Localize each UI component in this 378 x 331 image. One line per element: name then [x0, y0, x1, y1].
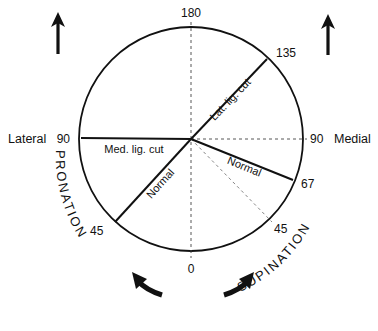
pronation-label: PRONATION [53, 150, 91, 241]
angle-label-90-right: 90 [310, 132, 324, 146]
angle-label-180: 180 [181, 6, 201, 20]
lat-lig-cut-label: Lat. lig. cut [207, 76, 253, 123]
angle-label-45-left: 45 [90, 224, 104, 238]
angle-label-67: 67 [301, 177, 315, 191]
normal-left-label: Normal [144, 166, 177, 200]
angle-label-90-left: 90 [57, 132, 71, 146]
angle-label-135: 135 [276, 46, 296, 60]
rotation-diagram: 180 135 90 90 67 45 45 0 Lateral Medial … [0, 0, 378, 331]
supination-up-arrow-icon [321, 14, 335, 55]
diagonal-45-reference-line [191, 139, 272, 222]
pronation-curved-arrow-icon [132, 272, 162, 295]
normal-right-label: Normal [226, 154, 263, 178]
pronation-up-arrow-icon [51, 12, 65, 54]
medial-label: Medial [334, 132, 371, 146]
med-lig-cut-label: Med. lig. cut [104, 143, 163, 155]
med-lig-cut-line [81, 138, 191, 139]
angle-label-0: 0 [188, 262, 195, 276]
lateral-label: Lateral [8, 132, 46, 146]
angle-label-45-right: 45 [274, 222, 288, 236]
